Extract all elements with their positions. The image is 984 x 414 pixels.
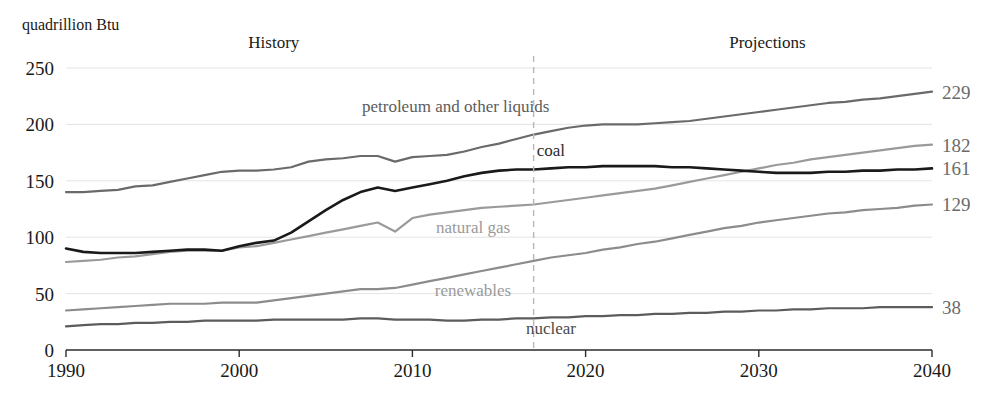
x-tick-label-2010: 2010	[393, 360, 431, 381]
annotation-history: History	[248, 33, 300, 52]
series-end-value-natural-gas: 182	[942, 135, 971, 156]
x-tick-label-2030: 2030	[740, 360, 778, 381]
series-line-nuclear	[66, 307, 932, 326]
x-tick-label-2020: 2020	[567, 360, 605, 381]
energy-consumption-chart: 199020002010202020302040050100150200250q…	[0, 0, 984, 414]
series-label-nuclear: nuclear	[526, 319, 576, 338]
series-end-value-renewables: 129	[942, 194, 971, 215]
labels-group: 199020002010202020302040050100150200250q…	[22, 16, 971, 381]
series-end-value-coal: 161	[942, 158, 971, 179]
annotation-projections: Projections	[729, 33, 806, 52]
y-tick-label-200: 200	[26, 114, 55, 135]
series-end-value-petroleum-and-other-liquids: 229	[942, 82, 971, 103]
series-label-natural-gas: natural gas	[436, 218, 510, 237]
chart-canvas: 199020002010202020302040050100150200250q…	[0, 0, 984, 414]
x-tick-label-2040: 2040	[913, 360, 951, 381]
y-tick-label-0: 0	[45, 340, 55, 361]
series-line-coal	[66, 166, 932, 253]
series-label-petroleum-and-other-liquids: petroleum and other liquids	[362, 97, 549, 116]
x-tick-label-2000: 2000	[220, 360, 258, 381]
series-label-coal: coal	[537, 141, 566, 160]
y-tick-label-250: 250	[26, 58, 55, 79]
x-tick-label-1990: 1990	[47, 360, 85, 381]
y-axis-unit-label: quadrillion Btu	[22, 16, 119, 34]
series-label-renewables: renewables	[435, 281, 511, 300]
y-tick-label-150: 150	[26, 171, 55, 192]
series-end-value-nuclear: 38	[942, 297, 961, 318]
series-line-natural-gas	[66, 145, 932, 262]
y-tick-label-100: 100	[26, 227, 55, 248]
y-tick-label-50: 50	[35, 284, 54, 305]
